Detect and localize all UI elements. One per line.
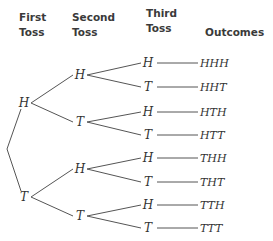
first-toss-node: T <box>20 190 29 204</box>
second-toss-node: T <box>76 115 85 129</box>
first-toss-node: H <box>18 96 30 110</box>
branch-second-to-third <box>87 63 141 75</box>
second-toss-node: T <box>76 209 85 223</box>
second-toss-node: H <box>74 68 86 82</box>
branch-second-to-third <box>87 122 141 135</box>
branch-second-to-third <box>87 216 141 228</box>
branch-first-to-second <box>31 103 73 122</box>
probability-tree: HTHTHTHHHHTHHTHHTHTHTTHTHHTTHTHTTHTTTT <box>0 0 273 241</box>
outcome-label: THH <box>200 152 227 165</box>
third-toss-node: T <box>144 80 153 94</box>
third-toss-node: H <box>142 151 154 165</box>
branch-root-to-first <box>7 149 21 191</box>
third-toss-node: T <box>144 175 153 189</box>
branch-second-to-third <box>87 205 141 216</box>
third-toss-node: H <box>142 198 154 212</box>
branch-second-to-third <box>87 112 141 122</box>
branch-root-to-first <box>7 109 21 149</box>
outcome-label: THT <box>200 176 226 189</box>
third-toss-node: H <box>142 105 154 119</box>
outcome-label: TTT <box>200 222 224 235</box>
branch-second-to-third <box>87 75 141 87</box>
branch-first-to-second <box>31 197 73 216</box>
third-toss-node: T <box>144 221 153 235</box>
branch-first-to-second <box>31 169 73 197</box>
third-toss-node: T <box>144 128 153 142</box>
outcome-label: HHH <box>199 57 229 70</box>
branch-second-to-third <box>87 169 141 182</box>
branch-first-to-second <box>31 75 73 103</box>
outcome-label: HTH <box>199 106 227 119</box>
outcome-label: HTT <box>199 129 226 142</box>
outcome-label: HHT <box>199 81 228 94</box>
outcome-label: TTH <box>200 199 225 212</box>
second-toss-node: H <box>74 162 86 176</box>
third-toss-node: H <box>142 56 154 70</box>
branch-second-to-third <box>87 158 141 169</box>
